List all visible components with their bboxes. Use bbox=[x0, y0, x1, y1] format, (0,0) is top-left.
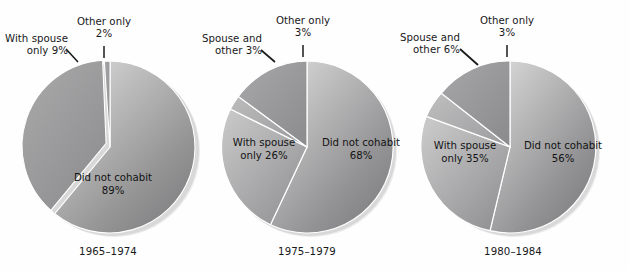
leader-line-spouse-and-other bbox=[460, 49, 478, 65]
callout-spouse-and-other-line2: other 3% bbox=[198, 45, 262, 57]
callout-with-spouse: With spouse only 9% bbox=[0, 33, 68, 58]
callout-other-only-line2: 2% bbox=[64, 28, 144, 40]
slice-label-did-not-cohabit-line1: Did not cohabit bbox=[43, 172, 183, 185]
slice-label-did-not-cohabit-line2: 89% bbox=[43, 185, 183, 198]
slice-label-with-spouse-only-line2: only 35% bbox=[422, 153, 508, 166]
slice-label-with-spouse-only-line2: only 26% bbox=[221, 150, 307, 163]
callout-other-only: Other only 2% bbox=[64, 16, 144, 41]
callout-with-spouse-line2: only 9% bbox=[0, 45, 68, 57]
callout-spouse-and-other-line1: Spouse and bbox=[398, 32, 460, 44]
callout-spouse-and-other: Spouse and other 6% bbox=[398, 32, 460, 57]
callout-other-only: Other only 3% bbox=[467, 15, 547, 40]
slice-label-did-not-cohabit: Did not cohabit 89% bbox=[43, 172, 183, 197]
slice-label-with-spouse-only: With spouse only 35% bbox=[422, 140, 508, 165]
callout-spouse-and-other: Spouse and other 3% bbox=[198, 33, 262, 58]
slice-label-did-not-cohabit-line1: Did not cohabit bbox=[311, 137, 411, 150]
leader-line-spouse-and-other bbox=[261, 50, 275, 62]
callout-other-only-line2: 3% bbox=[263, 27, 343, 39]
slice-label-did-not-cohabit: Did not cohabit 68% bbox=[311, 137, 411, 162]
slice-label-did-not-cohabit-line2: 56% bbox=[513, 153, 613, 166]
year-label-1965-1974: 1965–1974 bbox=[33, 246, 183, 258]
slice-label-did-not-cohabit: Did not cohabit 56% bbox=[513, 140, 613, 165]
callout-other-only-line1: Other only bbox=[467, 15, 547, 27]
callout-spouse-and-other-line1: Spouse and bbox=[198, 33, 262, 45]
slice-label-with-spouse-only-line1: With spouse bbox=[422, 140, 508, 153]
slice-label-with-spouse-only: With spouse only 26% bbox=[221, 137, 307, 162]
pie-chart-figure: Other only 2% With spouse only 9% Did no… bbox=[0, 0, 630, 271]
pie-panel-1975-1979: Other only 3% Spouse and other 3% Did no… bbox=[206, 0, 418, 271]
callout-spouse-and-other-line2: other 6% bbox=[398, 44, 460, 56]
slice-label-with-spouse-only-line1: With spouse bbox=[221, 137, 307, 150]
callout-other-only-line2: 3% bbox=[467, 27, 547, 39]
callout-other-only-line1: Other only bbox=[263, 15, 343, 27]
slice-label-did-not-cohabit-line1: Did not cohabit bbox=[513, 140, 613, 153]
year-label-1980-1984: 1980–1984 bbox=[438, 246, 588, 258]
year-label-1975-1979: 1975–1979 bbox=[232, 246, 382, 258]
callout-other-only-line1: Other only bbox=[64, 16, 144, 28]
slice-label-did-not-cohabit-line2: 68% bbox=[311, 150, 411, 163]
pie-panel-1980-1984: Other only 3% Spouse and other 6% Did no… bbox=[412, 0, 630, 271]
pie-panel-1965-1974: Other only 2% With spouse only 9% Did no… bbox=[0, 0, 212, 271]
callout-other-only: Other only 3% bbox=[263, 15, 343, 40]
callout-with-spouse-line1: With spouse bbox=[0, 33, 68, 45]
